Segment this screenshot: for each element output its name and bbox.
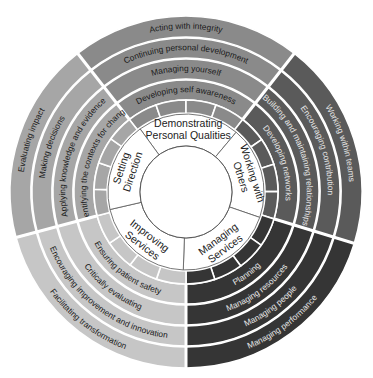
segment-tile	[94, 189, 110, 216]
center-circle	[140, 146, 232, 238]
domain-label: DemonstratingPersonal Qualities	[146, 117, 231, 141]
leadership-framework-wheel: DemonstratingPersonal QualitiesWorking w…	[0, 0, 373, 378]
